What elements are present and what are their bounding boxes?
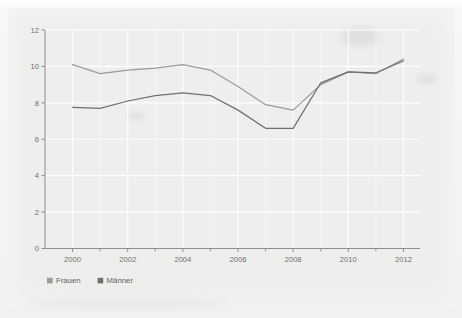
y-tick-label: 4 [35, 171, 39, 180]
x-tick-label: 2010 [340, 255, 357, 264]
y-tick-label: 2 [35, 208, 39, 217]
chart-page: 024681012 2000200220042006200820102012 F… [0, 0, 462, 318]
legend-swatch [98, 278, 104, 284]
x-tick-label: 2006 [230, 255, 247, 264]
x-tick-label: 2002 [119, 255, 136, 264]
legend-label: Männer [107, 276, 134, 285]
y-tick-label: 12 [31, 26, 39, 35]
line-chart: 024681012 2000200220042006200820102012 F… [0, 0, 462, 318]
y-tick-label: 10 [31, 62, 39, 71]
x-tick-label: 2000 [64, 255, 81, 264]
x-tick-label: 2012 [395, 255, 412, 264]
legend-swatch [47, 278, 53, 284]
x-tick-label: 2004 [174, 255, 191, 264]
y-tick-label: 0 [35, 244, 39, 253]
y-tick-label: 8 [35, 99, 39, 108]
horizontal-gridlines [45, 30, 420, 212]
chart-legend: FrauenMänner [47, 276, 133, 285]
legend-label: Frauen [56, 276, 81, 285]
x-tick-label: 2008 [285, 255, 302, 264]
y-tick-label: 6 [35, 135, 39, 144]
y-axis-ticks: 024681012 [31, 26, 45, 254]
x-axis-ticks: 2000200220042006200820102012 [64, 249, 412, 264]
